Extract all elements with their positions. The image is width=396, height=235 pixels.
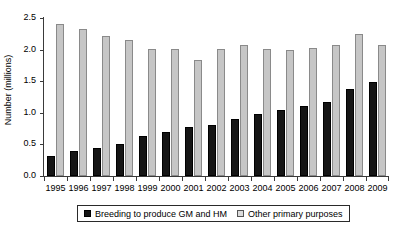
bar-1998-series1[interactable] — [116, 144, 124, 176]
bar-1996-series1[interactable] — [70, 151, 78, 176]
bar-group — [67, 18, 90, 176]
bar-1996-series2[interactable] — [79, 29, 87, 176]
legend-label-1: Breeding to produce GM and HM — [95, 209, 227, 219]
bar-1998-series2[interactable] — [125, 40, 133, 176]
x-axis-tick-marks — [44, 177, 389, 182]
x-axis-tick — [320, 177, 343, 182]
legend-swatch-gray — [237, 210, 244, 217]
bar-group — [205, 18, 228, 176]
bar-group — [182, 18, 205, 176]
x-axis-tick — [343, 177, 366, 182]
bar-group — [366, 18, 389, 176]
x-axis-tick — [136, 177, 159, 182]
bar-group — [274, 18, 297, 176]
x-axis-tick-labels: 1995199619971998199920002001200220032004… — [44, 183, 389, 195]
legend-entry-1[interactable]: Breeding to produce GM and HM — [84, 209, 227, 219]
x-axis-label-2001: 2001 — [182, 183, 205, 195]
x-axis-tick — [44, 177, 67, 182]
x-axis-label-2004: 2004 — [251, 183, 274, 195]
x-axis-tick — [90, 177, 113, 182]
bar-2003-series2[interactable] — [240, 45, 248, 176]
bar-1999-series2[interactable] — [148, 49, 156, 176]
bar-group — [136, 18, 159, 176]
bar-2006-series1[interactable] — [300, 106, 308, 176]
x-axis-label-2008: 2008 — [343, 183, 366, 195]
bar-2001-series2[interactable] — [194, 60, 202, 176]
x-axis-tick — [113, 177, 136, 182]
x-axis-tick — [251, 177, 274, 182]
bar-1999-series1[interactable] — [139, 136, 147, 176]
bar-2005-series2[interactable] — [286, 50, 294, 176]
x-axis-tick — [159, 177, 182, 182]
x-axis-label-2007: 2007 — [320, 183, 343, 195]
x-axis-label-2006: 2006 — [297, 183, 320, 195]
x-axis-tick — [297, 177, 320, 182]
bar-2005-series1[interactable] — [277, 110, 285, 176]
bar-group — [44, 18, 67, 176]
y-axis-tick-label: 2.0 — [23, 44, 36, 54]
bar-2002-series1[interactable] — [208, 125, 216, 176]
x-axis-label-2003: 2003 — [228, 183, 251, 195]
bar-2000-series1[interactable] — [162, 132, 170, 176]
bar-group — [113, 18, 136, 176]
x-axis-label-2002: 2002 — [205, 183, 228, 195]
bar-group — [90, 18, 113, 176]
bar-group — [159, 18, 182, 176]
x-axis-tick — [67, 177, 90, 182]
x-axis-label-1996: 1996 — [67, 183, 90, 195]
chart-legend: Breeding to produce GM and HMOther prima… — [77, 205, 350, 222]
x-axis-tick — [274, 177, 297, 182]
bar-1995-series1[interactable] — [47, 156, 55, 176]
bar-group — [228, 18, 251, 176]
bar-2007-series2[interactable] — [332, 45, 340, 176]
x-axis-label-2000: 2000 — [159, 183, 182, 195]
x-axis-tick — [182, 177, 205, 182]
bar-2001-series1[interactable] — [185, 127, 193, 176]
bar-2004-series1[interactable] — [254, 114, 262, 176]
y-axis-tick-label: 1.0 — [23, 107, 36, 117]
bar-2008-series2[interactable] — [355, 34, 363, 176]
x-axis-tick — [366, 177, 389, 182]
x-axis-label-1999: 1999 — [136, 183, 159, 195]
bar-1997-series2[interactable] — [102, 36, 110, 176]
plot-bars-area — [44, 18, 389, 176]
y-axis-title: Number (millions) — [0, 0, 16, 180]
y-axis-tick-label: 2.5 — [23, 12, 36, 22]
x-axis-label-2009: 2009 — [366, 183, 389, 195]
bar-group — [297, 18, 320, 176]
bar-2000-series2[interactable] — [171, 49, 179, 176]
legend-label-2: Other primary purposes — [248, 209, 343, 219]
y-axis-title-text: Number (millions) — [3, 55, 13, 126]
y-axis-tick-label: 0.5 — [23, 138, 36, 148]
bar-chart-figure: Number (millions) 0.00.51.01.52.02.5 199… — [0, 0, 396, 235]
bar-2008-series1[interactable] — [346, 89, 354, 176]
bar-2009-series2[interactable] — [378, 45, 386, 176]
bar-2004-series2[interactable] — [263, 49, 271, 176]
bar-group — [320, 18, 343, 176]
legend-swatch-black — [84, 210, 91, 217]
bar-2007-series1[interactable] — [323, 102, 331, 176]
bar-2003-series1[interactable] — [231, 119, 239, 176]
bar-1997-series1[interactable] — [93, 148, 101, 176]
x-axis-label-1997: 1997 — [90, 183, 113, 195]
x-axis-label-2005: 2005 — [274, 183, 297, 195]
bar-2006-series2[interactable] — [309, 48, 317, 176]
x-axis-tick — [205, 177, 228, 182]
x-axis-label-1995: 1995 — [44, 183, 67, 195]
x-axis-tick — [228, 177, 251, 182]
bar-1995-series2[interactable] — [56, 24, 64, 176]
y-axis-tick-label: 1.5 — [23, 75, 36, 85]
bar-2002-series2[interactable] — [217, 49, 225, 176]
y-axis-tick-label: 0.0 — [23, 170, 36, 180]
bar-group — [343, 18, 366, 176]
bar-group — [251, 18, 274, 176]
legend-entry-2[interactable]: Other primary purposes — [237, 209, 343, 219]
x-axis-label-1998: 1998 — [113, 183, 136, 195]
bar-2009-series1[interactable] — [369, 82, 377, 176]
